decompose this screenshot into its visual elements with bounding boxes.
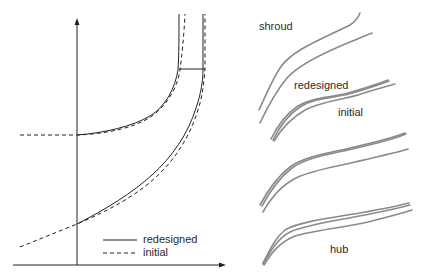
label-initial: initial <box>338 107 363 118</box>
blade-view <box>259 13 412 265</box>
y-axis-arrow-icon <box>75 18 80 25</box>
meridional-view <box>13 14 226 268</box>
blade-section-3 <box>260 133 408 212</box>
label-redesigned: redesigned <box>294 80 348 91</box>
x-axis-arrow-icon <box>219 263 226 268</box>
shroud-initial-curve <box>20 14 185 135</box>
hub-redesigned-curve <box>77 14 203 224</box>
blade-section-hub <box>263 203 412 265</box>
diagram-canvas <box>0 0 426 278</box>
shroud-redesigned-curve <box>77 14 179 135</box>
legend-label-initial: initial <box>143 247 168 258</box>
legend-label-redesigned: redesigned <box>143 234 197 245</box>
label-hub: hub <box>330 244 348 255</box>
label-shroud: shroud <box>259 21 293 32</box>
